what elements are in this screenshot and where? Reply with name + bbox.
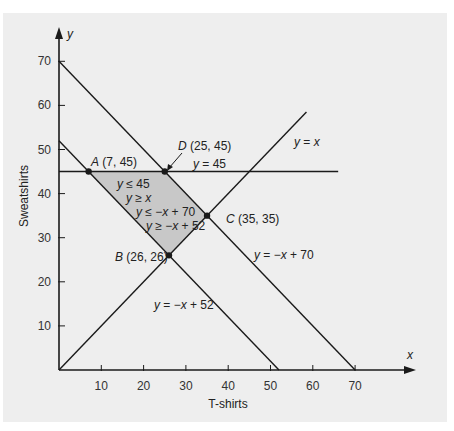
x-tick-label: 60 (306, 379, 320, 393)
point-d-marker (162, 168, 168, 174)
axes (55, 27, 416, 374)
label-point-a: A (7, 45) (90, 155, 137, 169)
constraint-4: y ≥ −x + 52 (145, 219, 206, 233)
y-tick-label: 50 (38, 143, 52, 157)
y-tick-label: 60 (38, 98, 52, 112)
y-tick-label: 40 (38, 187, 52, 201)
point-a-marker (85, 168, 91, 174)
y-tick-label: 20 (38, 275, 52, 289)
label-y-equals-neg-x-plus-52: y = −x + 52 (153, 298, 214, 312)
chart-svg: 1020304050607010203040506070 T-shirts Sw… (0, 0, 454, 431)
label-y-equals-45: y = 45 (192, 157, 226, 171)
x-tick-label: 50 (264, 379, 278, 393)
x-tick-label: 30 (179, 379, 193, 393)
x-tick-label: 20 (137, 379, 151, 393)
x-tick-label: 40 (222, 379, 236, 393)
y-axis-arrow-icon (55, 27, 63, 39)
constraint-2: y ≥ x (125, 191, 152, 205)
constraint-1: y ≤ 45 (116, 177, 150, 191)
y-tick-label: 10 (38, 319, 52, 333)
label-y-equals-x: y = x (293, 135, 321, 149)
y-axis-title: Sweatshirts (17, 165, 31, 227)
label-point-b: B (26, 26) (115, 250, 168, 264)
x-axis-arrow-icon (404, 366, 416, 374)
constraint-3: y ≤ −x + 70 (135, 205, 196, 219)
label-y-equals-neg-x-plus-70: y = −x + 70 (253, 248, 314, 262)
x-tick-label: 10 (95, 379, 109, 393)
y-axis-variable: y (66, 27, 74, 41)
label-point-c: C (35, 35) (226, 212, 279, 226)
point-d-pointer (169, 153, 182, 168)
x-axis-title: T-shirts (208, 397, 247, 411)
label-point-d: D (25, 45) (178, 139, 231, 153)
x-axis-variable: x (406, 348, 414, 362)
y-tick-label: 30 (38, 231, 52, 245)
y-tick-label: 70 (38, 54, 52, 68)
point-c-marker (204, 212, 210, 218)
x-tick-label: 70 (348, 379, 362, 393)
